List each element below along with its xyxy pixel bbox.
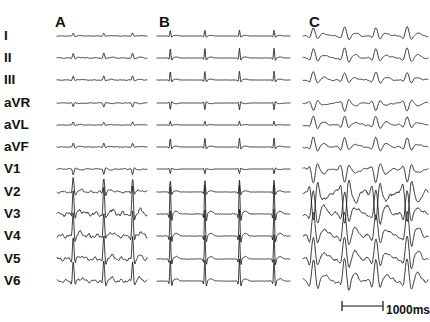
lead-label-v4: V4 bbox=[4, 229, 52, 243]
trace-c-avf bbox=[303, 137, 428, 151]
trace-b-avr bbox=[157, 101, 290, 109]
panel-c-traces bbox=[303, 27, 428, 290]
trace-b-ii bbox=[157, 48, 290, 60]
panel-letter-b: B bbox=[159, 14, 170, 29]
panel-letter-c: C bbox=[309, 14, 320, 29]
trace-c-v2 bbox=[303, 180, 428, 223]
panel-letter-a: A bbox=[55, 14, 66, 29]
trace-b-v1 bbox=[157, 168, 290, 174]
trace-a-v2 bbox=[57, 177, 147, 195]
trace-b-v2 bbox=[157, 180, 290, 194]
trace-c-avl bbox=[303, 116, 428, 129]
trace-b-i bbox=[157, 30, 290, 37]
trace-a-iii bbox=[57, 76, 147, 81]
panel-a-traces bbox=[57, 33, 147, 286]
trace-b-v3 bbox=[157, 185, 290, 221]
lead-label-i: I bbox=[4, 29, 52, 43]
trace-a-avl bbox=[57, 122, 147, 126]
ecg-trace-canvas bbox=[0, 0, 430, 322]
lead-label-avl: aVL bbox=[4, 118, 52, 132]
trace-c-v5 bbox=[303, 236, 428, 269]
trace-a-v5 bbox=[57, 236, 147, 265]
trace-a-avf bbox=[57, 143, 147, 148]
trace-c-v4 bbox=[303, 212, 428, 247]
trace-c-i bbox=[303, 27, 428, 40]
trace-a-i bbox=[57, 33, 147, 37]
scalebar-label: 1000ms bbox=[386, 304, 430, 316]
lead-label-avr: aVR bbox=[4, 96, 52, 110]
lead-label-v3: V3 bbox=[4, 207, 52, 221]
lead-label-v6: V6 bbox=[4, 274, 52, 288]
lead-label-v5: V5 bbox=[4, 252, 52, 266]
ecg-figure: ABCIIIIIIaVRaVLaVFV1V2V3V4V5V61000ms bbox=[0, 0, 430, 322]
lead-label-ii: II bbox=[4, 51, 52, 65]
trace-c-ii bbox=[303, 48, 428, 62]
lead-label-iii: III bbox=[4, 73, 52, 87]
trace-a-v6 bbox=[57, 261, 147, 286]
trace-b-v6 bbox=[157, 259, 290, 286]
trace-b-avf bbox=[157, 138, 290, 149]
trace-a-v1 bbox=[57, 168, 147, 175]
trace-b-iii bbox=[157, 71, 290, 82]
trace-a-avr bbox=[57, 102, 147, 107]
trace-a-ii bbox=[57, 53, 147, 59]
lead-label-v1: V1 bbox=[4, 162, 52, 176]
trace-c-v1 bbox=[303, 164, 428, 183]
scalebar bbox=[342, 301, 383, 311]
trace-c-v3 bbox=[303, 190, 428, 224]
panel-b-traces bbox=[157, 30, 290, 286]
trace-b-avl bbox=[157, 121, 290, 126]
lead-label-avf: aVF bbox=[4, 140, 52, 154]
trace-c-v6 bbox=[303, 258, 428, 290]
trace-b-v5 bbox=[157, 235, 290, 265]
scalebar-line bbox=[342, 301, 383, 311]
lead-label-v2: V2 bbox=[4, 185, 52, 199]
trace-c-avr bbox=[303, 100, 428, 112]
trace-c-iii bbox=[303, 72, 428, 84]
